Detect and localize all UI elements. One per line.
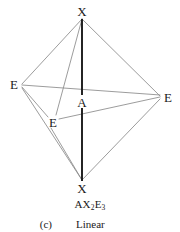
formula-ligand-symbol: X: [83, 198, 91, 210]
caption-shape-name: Linear: [52, 218, 180, 230]
formula-lonepair-count: 3: [102, 203, 106, 212]
vertex-label-e-right: E: [164, 91, 172, 104]
vertex-label-e-left: E: [10, 78, 18, 91]
edge-eleft-elower: [22, 87, 48, 117]
edge-xbot-elower: [51, 128, 82, 180]
edge-elower-eright: [59, 97, 160, 119]
figure-panel: X X E E E A AX2E3 (c) Linear: [0, 0, 180, 232]
vertex-label-x-top: X: [77, 5, 86, 18]
vertex-label-a-center: A: [77, 96, 86, 109]
formula-ligand-count: 2: [91, 203, 95, 212]
polyhedron-edges: [22, 19, 160, 180]
caption-index: (c): [0, 218, 52, 230]
chemical-formula: AX2E3: [0, 198, 180, 210]
vertex-label-e-lower: E: [49, 116, 57, 129]
figure-caption: (c) Linear: [0, 218, 180, 230]
edge-xbot-eleft: [22, 88, 82, 180]
formula-lonepair-symbol: E: [95, 198, 102, 210]
edge-xtop-eright: [82, 19, 160, 96]
edge-eleft-eright: [22, 85, 160, 95]
vertex-label-x-bottom: X: [77, 182, 86, 195]
formula-central-atom: A: [74, 198, 82, 210]
